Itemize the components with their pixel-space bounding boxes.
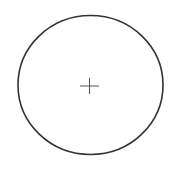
crosshair-icon bbox=[80, 78, 99, 94]
circle-diagram bbox=[0, 0, 176, 176]
circle-outline bbox=[18, 16, 163, 155]
